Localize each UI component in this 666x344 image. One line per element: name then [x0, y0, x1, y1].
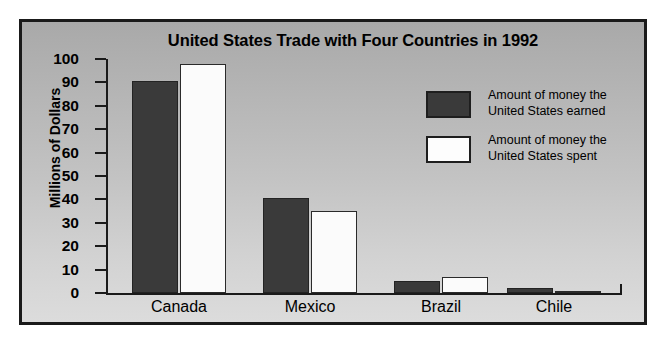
y-tick-label-100: 100 — [33, 51, 79, 67]
y-axis-line — [106, 59, 108, 295]
legend-label-earned-line1: Amount of money the — [488, 87, 640, 103]
x-axis-line — [106, 293, 622, 295]
bar-brazil-spent — [442, 277, 488, 293]
bar-mexico-spent — [311, 211, 357, 293]
y-tick-label-70: 70 — [33, 121, 79, 137]
y-tick-label-0: 0 — [33, 285, 79, 301]
y-tick-100 — [95, 58, 106, 60]
y-tick-label-10: 10 — [33, 262, 79, 278]
y-tick-0 — [95, 292, 106, 294]
legend-label-spent-line2: United States spent — [488, 148, 640, 164]
legend-swatch-earned-icon — [426, 91, 471, 118]
chart-legend: Amount of money the United States earned… — [426, 87, 641, 177]
y-tick-label-50: 50 — [33, 168, 79, 184]
y-tick-90 — [95, 81, 106, 83]
y-tick-50 — [95, 175, 106, 177]
x-label-mexico: Mexico — [239, 298, 381, 316]
y-tick-20 — [95, 245, 106, 247]
y-tick-60 — [95, 152, 106, 154]
y-tick-80 — [95, 105, 106, 107]
legend-item-spent: Amount of money the United States spent — [426, 132, 641, 172]
bar-canada-spent — [180, 64, 226, 293]
legend-label-spent: Amount of money the United States spent — [488, 132, 640, 164]
legend-label-spent-line1: Amount of money the — [488, 132, 640, 148]
legend-label-earned: Amount of money the United States earned — [488, 87, 640, 119]
y-tick-label-80: 80 — [33, 98, 79, 114]
legend-item-earned: Amount of money the United States earned — [426, 87, 641, 127]
bar-brazil-earned — [394, 281, 440, 293]
x-label-chile: Chile — [483, 298, 625, 316]
legend-label-earned-line2: United States earned — [488, 103, 640, 119]
bar-canada-earned — [132, 81, 178, 293]
legend-swatch-spent-icon — [426, 136, 471, 163]
y-tick-label-30: 30 — [33, 215, 79, 231]
x-axis-end-tick — [620, 284, 622, 295]
x-label-canada: Canada — [108, 298, 250, 316]
y-tick-40 — [95, 198, 106, 200]
y-tick-label-60: 60 — [33, 145, 79, 161]
y-tick-30 — [95, 222, 106, 224]
y-tick-label-20: 20 — [33, 238, 79, 254]
y-tick-10 — [95, 269, 106, 271]
y-axis-tick-labels: 0102030405060708090100 — [33, 22, 79, 325]
y-tick-label-40: 40 — [33, 191, 79, 207]
bar-chile-spent — [555, 291, 601, 293]
chart-frame: United States Trade with Four Countries … — [19, 19, 647, 325]
bar-mexico-earned — [263, 198, 309, 293]
y-tick-label-90: 90 — [33, 74, 79, 90]
bar-chile-earned — [507, 288, 553, 293]
y-tick-70 — [95, 128, 106, 130]
